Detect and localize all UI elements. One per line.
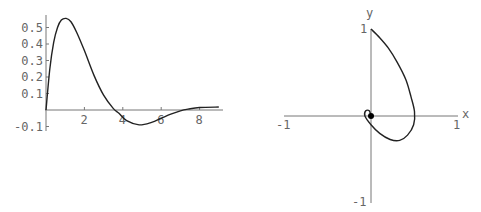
left-line-plot: 2468 0.50.40.30.20.1-0.1 (14, 15, 223, 134)
figure: 2468 0.50.40.30.20.1-0.1 x y -1 1 1 -1 (0, 0, 481, 212)
left-y-tick-label: 0.1 (21, 87, 43, 101)
right-y-tick-neg: -1 (352, 195, 366, 209)
left-y-tick-label: 0.2 (21, 70, 43, 84)
left-y-tick-label: -0.1 (14, 120, 43, 134)
left-y-tick-label: 0.4 (21, 37, 43, 51)
right-x-tick-pos: 1 (453, 118, 460, 132)
left-y-tick-label: 0.5 (21, 21, 43, 35)
left-curve (46, 18, 219, 125)
right-y-axis-label: y (366, 6, 373, 20)
left-x-tick-label: 8 (196, 113, 203, 127)
right-x-axis-label: x (462, 107, 469, 121)
right-parametric-plot: x y -1 1 1 -1 (276, 6, 469, 209)
left-x-tick-label: 2 (80, 113, 87, 127)
right-curve (365, 29, 415, 141)
left-y-tick-label: 0.3 (21, 54, 43, 68)
right-x-tick-neg: -1 (276, 118, 290, 132)
left-y-ticks: 0.50.40.30.20.1-0.1 (14, 21, 49, 134)
right-y-tick-pos: 1 (360, 22, 367, 36)
origin-point-marker (368, 113, 374, 119)
